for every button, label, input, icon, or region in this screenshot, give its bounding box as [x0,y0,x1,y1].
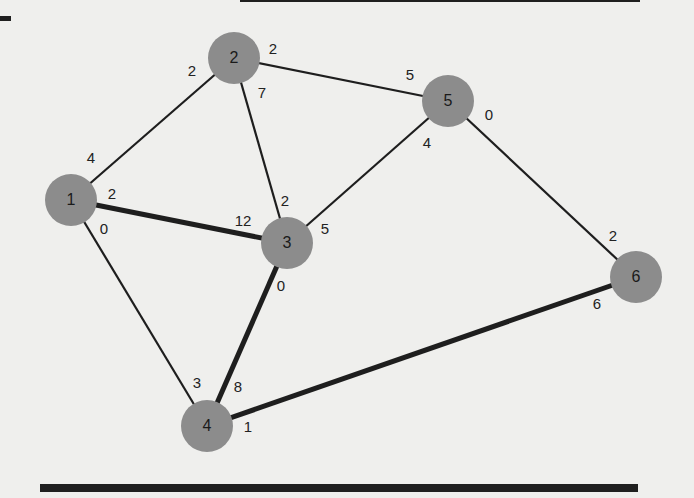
edge-5-6 [448,101,636,277]
edge-weight-label: 4 [423,134,431,151]
node-label-5: 5 [444,92,453,110]
edge-weight-label: 5 [406,66,414,83]
node-label-4: 4 [203,417,212,435]
edge-1-4 [71,200,207,426]
edge-weight-label: 6 [593,295,601,312]
node-label-6: 6 [632,268,641,286]
edge-1-2 [71,58,234,200]
node-label-1: 1 [67,191,76,209]
edge-weight-label: 0 [485,106,493,123]
node-label-2: 2 [230,49,239,67]
edge-weight-label: 5 [321,220,329,237]
edge-weight-label: 0 [277,277,285,294]
edge-weight-label: 2 [609,227,617,244]
edge-4-6 [207,277,636,426]
nodes-layer [45,32,662,452]
edge-weight-label: 1 [244,418,252,435]
edge-weight-label: 0 [100,220,108,237]
edge-weight-label: 2 [108,185,116,202]
edge-3-4 [207,243,287,426]
edge-weight-label: 2 [269,40,277,57]
node-label-3: 3 [283,234,292,252]
edge-3-5 [287,101,448,243]
edge-weight-label: 2 [188,62,196,79]
graph-canvas [0,0,694,498]
edge-weight-label: 12 [235,212,252,229]
edge-weight-label: 8 [234,378,242,395]
edge-weight-label: 7 [258,84,266,101]
edge-weight-label: 3 [193,374,201,391]
edges-layer [71,58,636,426]
edge-weight-label: 4 [87,149,95,166]
edge-weight-label: 2 [281,192,289,209]
